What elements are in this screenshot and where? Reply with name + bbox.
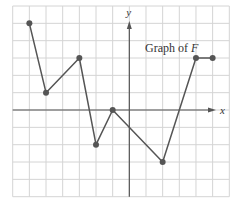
data-point (93, 142, 99, 148)
graph-of-f: x y Graph of F (0, 0, 233, 207)
data-point (193, 55, 199, 61)
axes: x y (13, 6, 225, 197)
data-point (160, 159, 166, 165)
data-point (76, 55, 82, 61)
graph-title: Graph of F (145, 41, 199, 55)
data-point (210, 55, 216, 61)
x-axis-label: x (219, 104, 225, 116)
y-axis-label: y (125, 6, 131, 18)
graph-title-function-name: F (190, 41, 199, 55)
x-axis-arrow-icon (208, 108, 216, 113)
grid (13, 6, 230, 197)
data-point (110, 107, 116, 113)
y-axis-arrow-icon (127, 21, 132, 29)
graph-title-prefix: Graph of (145, 41, 191, 55)
data-point (43, 90, 49, 96)
data-point (26, 20, 32, 26)
